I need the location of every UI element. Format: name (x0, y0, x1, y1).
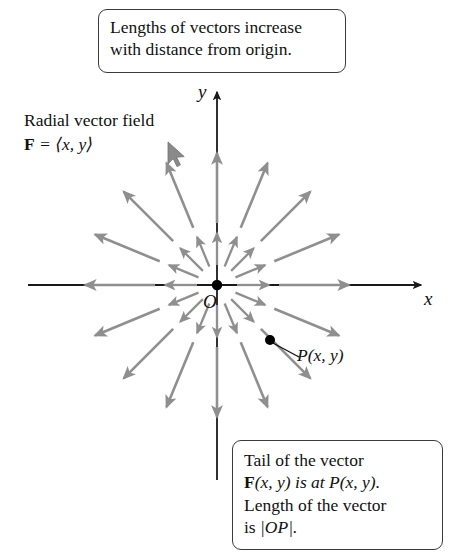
callout-top-line2: with distance from origin. (110, 39, 292, 59)
callout-bottom-point: P(x, y). (329, 472, 380, 492)
field-vector-outer-247.5 (166, 342, 193, 407)
callout-bottom-line4-pre: is (244, 517, 260, 537)
field-vector-outer-45 (261, 192, 311, 242)
field-vector-inner-292.5 (225, 303, 237, 333)
field-vector-inner-225 (180, 299, 203, 322)
radial-field-formula: F = ⟨x, y⟩ (24, 133, 154, 156)
radial-field-note-title: Radial vector field (24, 110, 154, 130)
mouse-cursor-icon (168, 142, 184, 167)
radial-field-note: Radial vector field F = ⟨x, y⟩ (24, 109, 154, 156)
formula-body: = ⟨x, y⟩ (35, 134, 94, 154)
origin-label: O (203, 291, 217, 313)
x-axis-label: x (424, 288, 432, 310)
field-vector-inner-67.5 (225, 237, 237, 267)
callout-bottom: Tail of the vector F(x, y) is at P(x, y)… (232, 440, 443, 550)
callout-bottom-line3: Length of the vector (244, 495, 386, 515)
callout-bottom-line2-rest: (x, y) is at (255, 472, 329, 492)
field-vector-outer-67.5 (241, 163, 268, 228)
field-vector-inner-22.5 (235, 265, 265, 277)
y-axis-label: y (198, 81, 206, 103)
field-vector-inner-45 (231, 248, 254, 271)
callout-top: Lengths of vectors increase with distanc… (98, 9, 346, 73)
field-vector-inner-202.5 (169, 293, 199, 305)
field-vector-outer-337.5 (274, 309, 339, 336)
field-vector-outer-157.5 (95, 234, 160, 261)
field-vector-outer-112.5 (166, 163, 193, 228)
callout-bottom-vector-symbol: F (244, 472, 255, 492)
origin-dot (212, 280, 222, 290)
callout-top-line1: Lengths of vectors increase (110, 17, 302, 37)
field-vector-outer-202.5 (95, 309, 160, 336)
field-vector-outer-292.5 (241, 342, 268, 407)
field-vector-inner-337.5 (235, 293, 265, 305)
field-vector-outer-225 (124, 329, 174, 379)
point-p-label: P(x, y) (297, 345, 344, 366)
formula-vector-symbol: F (24, 134, 35, 154)
callout-bottom-line1: Tail of the vector (244, 450, 364, 470)
field-vector-inner-157.5 (169, 265, 199, 277)
field-vector-outer-22.5 (274, 234, 339, 261)
figure-canvas: Lengths of vectors increase with distanc… (0, 0, 450, 553)
callout-bottom-line4-abs: |OP|. (260, 517, 297, 537)
field-vector-inner-315 (231, 299, 254, 322)
field-vector-inner-135 (180, 248, 203, 271)
field-vector-inner-112.5 (197, 237, 209, 267)
field-vector-outer-135 (124, 192, 174, 242)
